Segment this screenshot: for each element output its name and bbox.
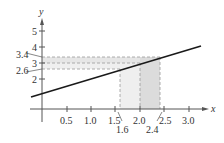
axes (30, 22, 205, 122)
y-tick-label-4: 4 (32, 42, 37, 53)
line-chart: y x 5 4 3 2 3.4 2.6 0.5 1.0 1.5 2.0 2.5 … (0, 0, 224, 143)
x-axis-label: x (210, 103, 216, 114)
y-mark-label-3-4: 3.4 (16, 49, 29, 60)
shade-horizontal-dark (42, 57, 140, 63)
y-tick-label-5: 5 (32, 26, 37, 37)
y-mark-label-2-6: 2.6 (16, 65, 29, 76)
x-axis-arrow-icon (202, 107, 209, 111)
x-tick-label-1-0: 1.0 (84, 115, 97, 126)
y-tick-label-2: 2 (32, 74, 37, 85)
shade-vertical-dark (140, 57, 160, 109)
y-tick-label-3: 3 (32, 58, 37, 69)
x-tick-label-0-5: 0.5 (60, 115, 73, 126)
shade-horizontal-light (42, 63, 120, 69)
data-line (31, 46, 201, 97)
x-tick-label-2-0: 2.0 (133, 115, 146, 126)
x-mark-label-2-4: 2.4 (146, 124, 159, 135)
y-axis-label: y (38, 6, 44, 17)
x-mark-label-1-6: 1.6 (116, 124, 129, 135)
x-tick-label-2-5: 2.5 (159, 115, 172, 126)
y-axis-arrow-icon (40, 18, 44, 25)
x-tick-label-3-0: 3.0 (182, 115, 195, 126)
